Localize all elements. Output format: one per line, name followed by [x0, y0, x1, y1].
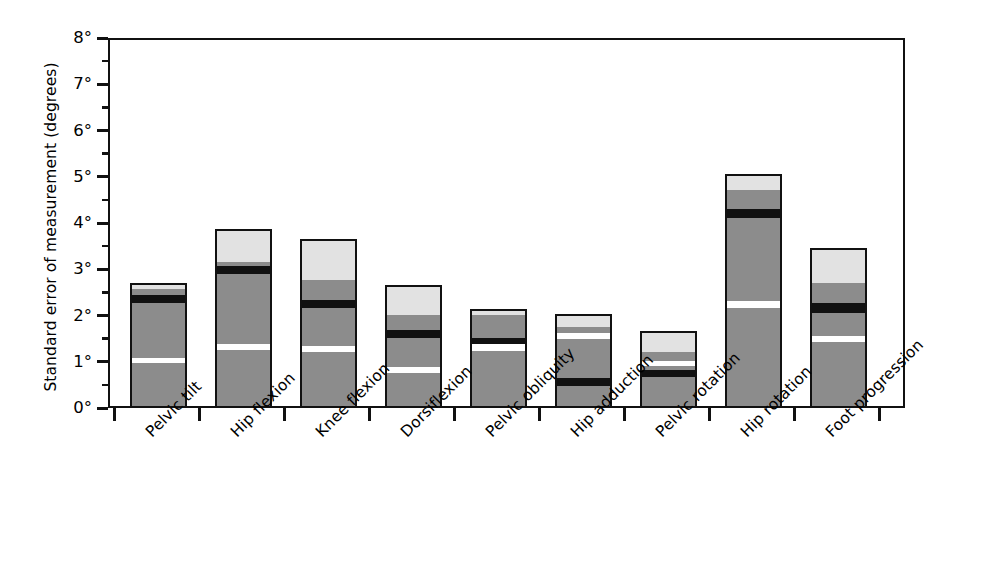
bar-hip-flexion	[215, 229, 272, 406]
bar-segment-light	[555, 314, 612, 328]
bar-segment-gray	[385, 338, 442, 366]
bar-segment-gray	[470, 315, 527, 338]
bar-segment-light	[640, 331, 697, 353]
x-axis-tick	[113, 408, 116, 421]
y-tick-mark	[97, 175, 108, 178]
bar-knee-flexion	[300, 239, 357, 406]
x-axis-tick	[793, 408, 796, 421]
y-tick-mark	[97, 37, 108, 40]
bar-segment-black	[725, 209, 782, 218]
x-axis-tick	[453, 408, 456, 421]
x-axis-tick	[198, 408, 201, 421]
x-axis-tick	[708, 408, 711, 421]
y-tick-mark	[97, 360, 108, 363]
bar-segment-gray	[810, 313, 867, 336]
bar-segment-black	[130, 295, 187, 304]
bar-segment-white	[555, 333, 612, 339]
chart-root: Standard error of measurement (degrees) …	[0, 0, 983, 573]
bar-segment-white	[470, 344, 527, 351]
y-tick-mark	[97, 129, 108, 132]
bar-segment-light	[470, 309, 527, 315]
y-tick-mark	[97, 268, 108, 271]
bar-segment-gray	[215, 262, 272, 267]
y-tick-mark	[97, 314, 108, 317]
bar-segment-white	[725, 301, 782, 307]
bar-segment-black	[215, 266, 272, 274]
bar-segment-light	[300, 239, 357, 281]
bar-segment-light	[215, 229, 272, 262]
bar-segment-black	[385, 330, 442, 338]
bar-segment-white	[810, 336, 867, 342]
plot-area	[108, 38, 905, 408]
y-axis-title: Standard error of measurement (degrees)	[42, 27, 68, 427]
bar-segment-black	[810, 303, 867, 312]
bar-segment-black	[555, 378, 612, 385]
bar-segment-gray	[300, 308, 357, 346]
y-tick-label: 8°	[73, 25, 92, 51]
x-axis-tick	[368, 408, 371, 421]
bar-segment-gray	[130, 289, 187, 294]
bar-segment-black	[300, 300, 357, 308]
y-tick-label: 3°	[73, 256, 92, 282]
bar-segment-gray	[130, 303, 187, 358]
bar-segment-light	[810, 248, 867, 284]
y-tick-label: 2°	[73, 303, 92, 329]
y-tick-label: 6°	[73, 118, 92, 144]
bar-segment-light	[130, 283, 187, 289]
bar-segment-gray	[300, 280, 357, 299]
bar-foot-progression	[810, 248, 867, 406]
y-tick-label: 4°	[73, 210, 92, 236]
y-tick-mark	[97, 222, 108, 225]
bar-dorsiflexion	[385, 285, 442, 406]
y-tick-label: 7°	[73, 71, 92, 97]
bar-segment-gray	[810, 283, 867, 303]
bar-segment-gray	[725, 190, 782, 209]
bar-segment-gray	[385, 315, 442, 330]
bar-pelvic-tilt	[130, 283, 187, 406]
x-axis-tick	[623, 408, 626, 421]
x-axis-tick	[283, 408, 286, 421]
y-tick-label: 0°	[73, 395, 92, 421]
y-tick-mark	[97, 407, 108, 410]
bar-segment-gray	[215, 274, 272, 343]
bar-segment-black	[470, 338, 527, 345]
bar-segment-light	[385, 285, 442, 316]
x-axis-tick	[538, 408, 541, 421]
bar-segment-gray	[725, 218, 782, 301]
y-tick-mark	[97, 83, 108, 86]
y-tick-label: 1°	[73, 349, 92, 375]
bar-segment-white	[130, 358, 187, 364]
x-axis-tick	[878, 408, 881, 421]
bar-segment-white	[215, 344, 272, 350]
bar-segment-white	[300, 346, 357, 352]
bar-segment-light	[725, 174, 782, 190]
bar-group	[110, 40, 903, 406]
y-tick-label: 5°	[73, 164, 92, 190]
bar-segment-gray	[555, 327, 612, 333]
